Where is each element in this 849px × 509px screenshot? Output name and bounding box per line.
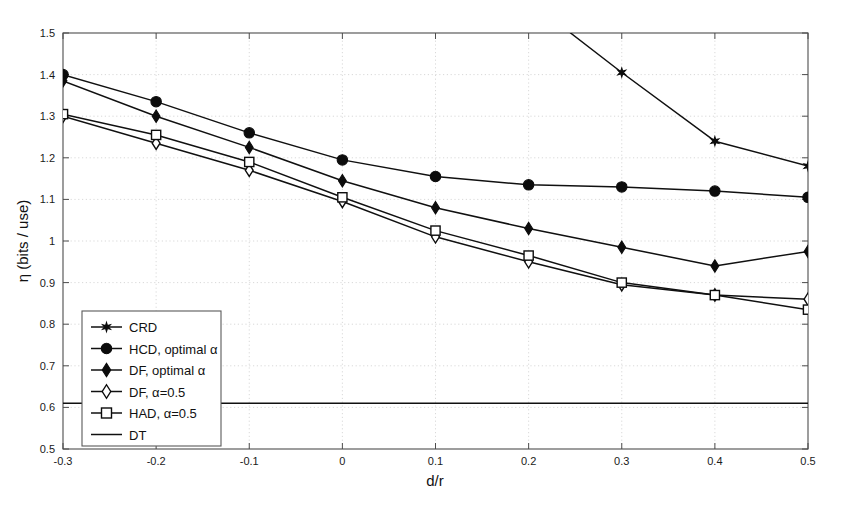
data-point-marker bbox=[617, 278, 626, 287]
y-tick-label: 1.4 bbox=[40, 69, 55, 81]
y-tick-label: 0.5 bbox=[40, 443, 55, 455]
series-line bbox=[571, 33, 808, 166]
y-tick-label: 1.1 bbox=[40, 193, 55, 205]
data-point-marker bbox=[432, 202, 440, 214]
y-tick-label: 0.7 bbox=[40, 360, 55, 372]
legend-label: DF, optimal α bbox=[129, 363, 206, 378]
x-tick-label: 0.1 bbox=[428, 455, 443, 467]
legend-item-df-0-5[interactable]: DF, α=0.5 bbox=[91, 385, 185, 400]
data-point-marker bbox=[711, 260, 719, 272]
data-point-marker bbox=[617, 182, 627, 192]
data-point-marker bbox=[430, 171, 440, 181]
x-tick-label: -0.3 bbox=[54, 455, 73, 467]
x-tick-label: 0.5 bbox=[800, 455, 815, 467]
y-tick-label: 0.6 bbox=[40, 401, 55, 413]
data-point-marker bbox=[710, 186, 720, 196]
x-tick-label: -0.1 bbox=[240, 455, 259, 467]
filled-circle-icon bbox=[101, 343, 111, 353]
y-tick-label: 1.3 bbox=[40, 110, 55, 122]
data-point-marker bbox=[804, 245, 812, 257]
data-point-marker bbox=[618, 68, 626, 77]
x-tick-label: 0.2 bbox=[521, 455, 536, 467]
data-point-marker bbox=[523, 180, 533, 190]
data-point-marker bbox=[58, 110, 67, 119]
data-point-marker bbox=[803, 305, 812, 314]
data-point-marker bbox=[244, 128, 254, 138]
legend-label: HAD, α=0.5 bbox=[129, 406, 197, 421]
y-tick-label: 0.8 bbox=[40, 318, 55, 330]
x-axis-title: d/r bbox=[426, 472, 444, 489]
y-tick-labels: 0.50.60.70.80.911.11.21.31.41.5 bbox=[40, 27, 55, 455]
series-crd bbox=[571, 33, 812, 171]
figure-canvas: -0.3-0.2-0.100.10.20.30.40.5 0.50.60.70.… bbox=[0, 0, 849, 509]
data-point-marker bbox=[803, 192, 813, 202]
x-tick-label: 0.3 bbox=[614, 455, 629, 467]
data-point-marker bbox=[338, 193, 347, 202]
data-point-marker bbox=[152, 110, 160, 122]
x-tick-label: 0 bbox=[339, 455, 345, 467]
data-point-marker bbox=[431, 226, 440, 235]
data-point-marker bbox=[245, 157, 254, 166]
data-point-marker bbox=[337, 155, 347, 165]
data-point-marker bbox=[152, 130, 161, 139]
data-point-marker bbox=[245, 141, 253, 153]
data-point-marker bbox=[618, 241, 626, 253]
chart-legend[interactable]: CRDHCD, optimal αDF, optimal αDF, α=0.5H… bbox=[82, 311, 221, 446]
x-tick-labels: -0.3-0.2-0.100.10.20.30.40.5 bbox=[54, 455, 816, 467]
data-point-marker bbox=[151, 96, 161, 106]
data-point-marker bbox=[804, 293, 812, 305]
y-tick-label: 0.9 bbox=[40, 277, 55, 289]
data-point-marker bbox=[525, 222, 533, 234]
open-square-icon bbox=[102, 408, 112, 418]
legend-label: HCD, optimal α bbox=[129, 342, 218, 357]
data-point-marker bbox=[524, 251, 533, 260]
x-tick-label: 0.4 bbox=[707, 455, 722, 467]
data-point-marker bbox=[710, 290, 719, 299]
legend-label: DF, α=0.5 bbox=[129, 385, 185, 400]
line-chart: -0.3-0.2-0.100.10.20.30.40.5 0.50.60.70.… bbox=[0, 0, 849, 509]
y-tick-label: 1 bbox=[49, 235, 55, 247]
data-point-marker bbox=[338, 174, 346, 186]
y-tick-label: 1.5 bbox=[40, 27, 55, 39]
legend-label: CRD bbox=[129, 320, 157, 335]
y-axis-title: η (bits / use) bbox=[14, 200, 31, 283]
legend-label: DT bbox=[129, 428, 146, 443]
y-tick-label: 1.2 bbox=[40, 152, 55, 164]
x-tick-label: -0.2 bbox=[147, 455, 166, 467]
